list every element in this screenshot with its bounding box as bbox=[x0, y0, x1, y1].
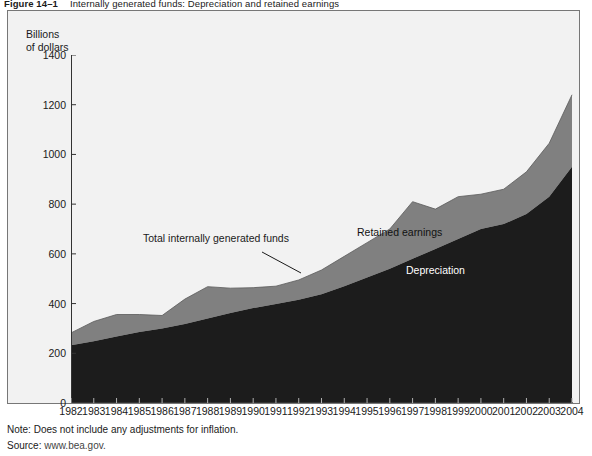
plot-area bbox=[71, 55, 573, 403]
source-url: www.bea.gov. bbox=[44, 440, 106, 451]
y-tick-label: 1200 bbox=[32, 100, 66, 110]
annotation-retained-earnings: Retained earnings bbox=[357, 226, 442, 238]
y-axis-tick-labels: 0200400600800100012001400 bbox=[28, 0, 66, 456]
source-line: Source: www.bea.gov. bbox=[7, 439, 106, 452]
figure-caption: Internally generated funds: Depreciation… bbox=[70, 0, 339, 9]
y-tick-label: 200 bbox=[32, 348, 66, 358]
area-chart-svg bbox=[71, 55, 573, 403]
source-label: Source: bbox=[7, 440, 41, 451]
note-line: Note: Does not include any adjustments f… bbox=[7, 423, 238, 436]
y-tick-label: 1000 bbox=[32, 149, 66, 159]
y-tick-label: 1400 bbox=[32, 50, 66, 60]
y-tick-label: 600 bbox=[32, 249, 66, 259]
x-axis-tick-labels: 1982198319841985198619871988198919901991… bbox=[0, 405, 592, 419]
y-tick-label: 800 bbox=[32, 199, 66, 209]
annotation-total-internally-generated-funds: Total internally generated funds bbox=[143, 232, 289, 244]
annotation-depreciation: Depreciation bbox=[406, 264, 465, 276]
y-tick-label: 400 bbox=[32, 299, 66, 309]
x-tick-label: 2004 bbox=[557, 405, 587, 418]
